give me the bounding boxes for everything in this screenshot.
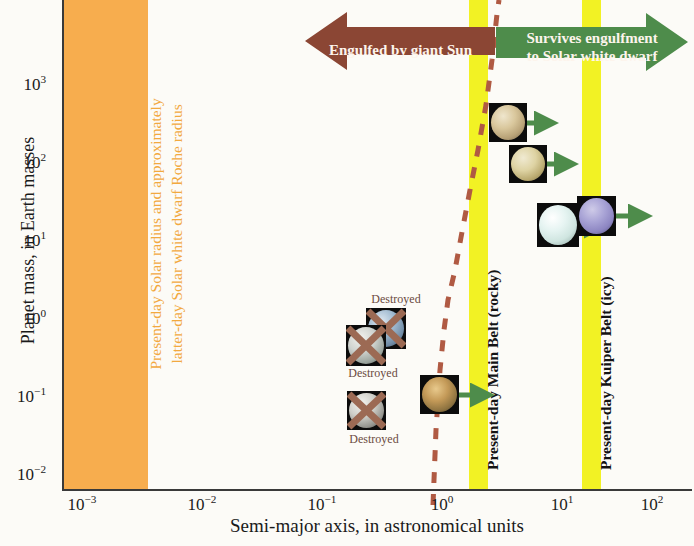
destroyed-x-icon [346, 325, 386, 366]
x-tick-label: 10−3 [52, 496, 112, 513]
x-tick-label: 102 [622, 496, 682, 513]
y-axis-line [62, 0, 64, 491]
x-tick-label: 101 [532, 496, 592, 513]
destroyed-x-icon [347, 391, 386, 430]
x-axis-label: Semi-major axis, in astronomical units [62, 515, 692, 537]
y-tick-label: 10−2 [0, 466, 46, 483]
planet-mars [420, 375, 459, 414]
destroyed-label-mercury: Destroyed [334, 432, 414, 447]
planet-earth [346, 325, 386, 366]
x-axis-line [62, 489, 692, 491]
planet-neptune [577, 196, 616, 236]
figure-canvas: Present-day Solar radius and approximate… [0, 0, 694, 546]
planet-saturn [509, 145, 547, 183]
x-tick-label: 100 [412, 496, 472, 513]
planet-mercury [347, 391, 386, 430]
migration-arrows [0, 0, 694, 546]
x-tick-label: 10−2 [172, 496, 232, 513]
y-tick-label: 103 [0, 76, 46, 93]
y-axis-label: Planet mass, in Earth masses [18, 101, 39, 381]
y-tick-label: 10−1 [0, 388, 46, 405]
planet-jupiter [489, 103, 527, 142]
planet-uranus [537, 203, 579, 247]
destroyed-label-earth: Destroyed [333, 366, 413, 381]
x-tick-label: 10−1 [292, 496, 352, 513]
destroyed-label-venus: Destroyed [356, 292, 436, 307]
